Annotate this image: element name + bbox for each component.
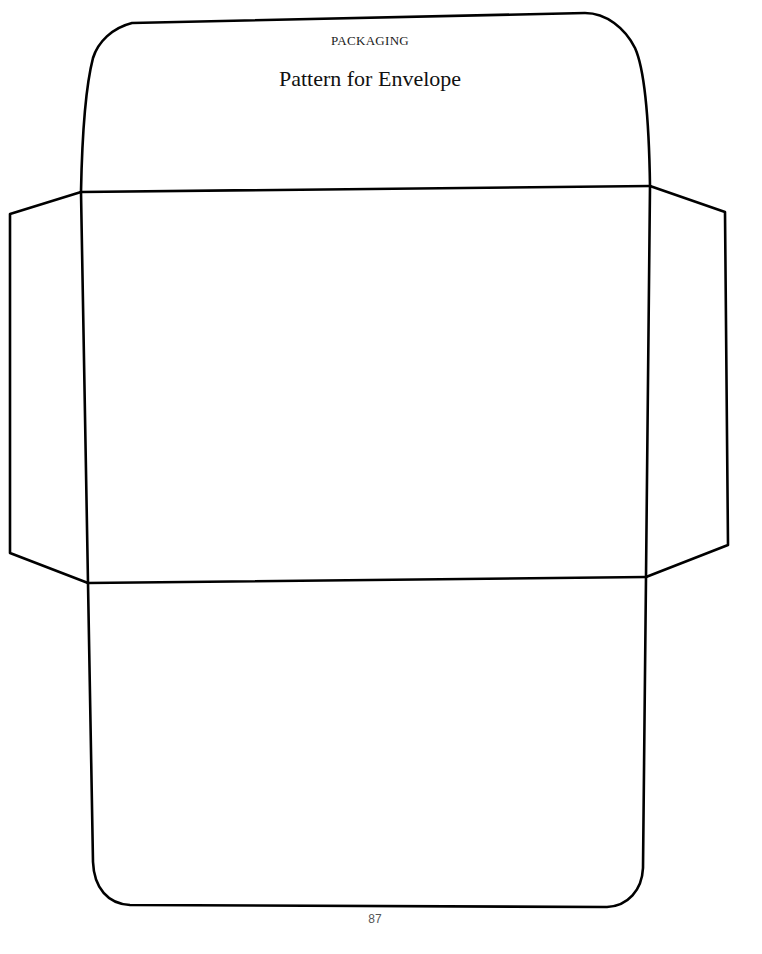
left-fold-line xyxy=(81,192,88,583)
left-side-flap-outline xyxy=(10,192,88,583)
envelope-pattern xyxy=(0,0,762,954)
right-side-flap-outline xyxy=(646,186,728,577)
top-fold-line xyxy=(81,186,650,192)
page-number: 87 xyxy=(0,912,750,926)
bottom-flap-outline xyxy=(88,577,646,907)
document-page: PACKAGING Pattern for Envelope 87 xyxy=(0,0,762,954)
bottom-fold-line xyxy=(88,577,646,583)
page-title: Pattern for Envelope xyxy=(0,66,740,92)
right-fold-line xyxy=(646,186,650,577)
section-label: PACKAGING xyxy=(0,33,740,49)
